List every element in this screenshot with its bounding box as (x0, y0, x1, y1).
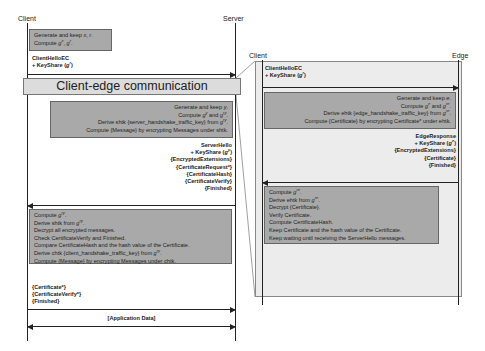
server-process-box: Generate and keep y. Compute gy and gry.… (50, 101, 233, 138)
inset-client-box-line-4: Verify Certificate. (269, 212, 434, 220)
server-box-line-3: Derive shtk {server_handshake_traffic_ke… (55, 119, 228, 127)
edge-response-line-3: {EncryptedExtensions} (330, 147, 456, 154)
application-data-label: [Application Data] (28, 315, 235, 322)
client-final-line-1: {Certificate*} (32, 284, 81, 291)
client-edge-banner: Client-edge communication (23, 78, 241, 95)
inset-client-hello-arrow (263, 87, 458, 88)
edge-response-line-4: {Certificate} (330, 155, 456, 162)
edge-box-line-4: Compute {Certificate} by encrypting Cert… (269, 118, 451, 126)
server-hello-line-3: {EncryptedExtensions} (100, 156, 232, 163)
server-hello-arrow (28, 205, 235, 206)
client-process-box: Compute gry. Derive shtk from gry. Decry… (29, 209, 232, 264)
edge-response-arrow (263, 182, 458, 183)
inset-client-box-line-2: Derive ehtk from gre. (269, 197, 434, 205)
inset-edge-lifeline (458, 60, 459, 305)
client-box-line-3: Decrypt all encrypted messages. (34, 227, 227, 235)
inset-client-process-box: Compute gre. Derive ehtk from gre. Decry… (264, 186, 439, 244)
server-hello-line-7: {Finished} (100, 185, 232, 192)
client-box-line-1: Compute gry. (34, 212, 227, 220)
client-box-line-4: Check CertificateVerify and Finished. (34, 235, 227, 243)
server-hello-line-2: + KeyShare (gy) (100, 149, 232, 156)
application-data-arrow (28, 326, 235, 327)
client-init-box: Generate and keep x, r. Compute gx, gr. (29, 29, 112, 51)
inset-edge-label: Edge (452, 52, 468, 59)
inset-client-hello-line-2: + KeyShare (gr) (265, 72, 306, 79)
participant-server-label: Server (223, 15, 244, 22)
edge-box-line-3: Derive ehtk {edge_handshake_traffic_key}… (269, 110, 451, 118)
inset-client-box-line-5: Compute CertificateHash. (269, 219, 434, 227)
inset-client-label: Client (249, 52, 267, 59)
client-box-line-2: Derive shtk from gry. (34, 220, 227, 228)
inset-client-box-line-3: Decrypt {Certificate}. (269, 204, 434, 212)
server-box-line-4: Compute {Message} by encrypting Messages… (55, 127, 228, 135)
client-hello-message: ClientHelloEC + KeyShare (gr) (32, 55, 73, 69)
client-final-line-3: {Finished} (32, 298, 81, 305)
server-box-line-1: Generate and keep y. (55, 104, 228, 112)
server-hello-line-5: {CertificateHash} (100, 171, 232, 178)
client-lifeline (27, 23, 28, 341)
client-init-line-2: Compute gx, gr. (34, 40, 107, 48)
edge-response-message: EdgeResponse + KeyShare (ge) {EncryptedE… (330, 133, 456, 169)
client-box-line-7: Compute {Message} by encrypting Messages… (34, 258, 227, 266)
client-box-line-6: Derive chtk {client_handshake_traffic_ke… (34, 250, 227, 258)
participant-client-label: Client (18, 15, 36, 22)
client-final-message: {Certificate*} {CertificateVerify*} {Fin… (32, 284, 81, 306)
server-hello-line-6: {CertificateVerify} (100, 178, 232, 185)
edge-response-line-2: + KeyShare (ge) (330, 140, 456, 147)
inset-client-box-line-7: Keep waiting until receiving the ServerH… (269, 235, 434, 243)
client-hello-line-2: + KeyShare (gr) (32, 62, 73, 69)
client-finished-arrow (28, 309, 235, 310)
client-hello-arrow (28, 74, 235, 75)
edge-process-box: Generate and keep e. Compute ge and gre.… (264, 92, 456, 129)
server-hello-line-4: {CertificateRequest*} (100, 164, 232, 171)
edge-response-line-5: {Finished} (330, 162, 456, 169)
client-box-line-5: Compare CertificateHash and the hash val… (34, 242, 227, 250)
client-final-line-2: {CertificateVerify*} (32, 291, 81, 298)
inset-client-box-line-6: Keep Certificate and the hash value of t… (269, 227, 434, 235)
inset-client-hello-message: ClientHelloEC + KeyShare (gr) (265, 65, 306, 79)
inset-client-box-line-1: Compute gre. (269, 189, 434, 197)
server-hello-message: ServerHello + KeyShare (gy) {EncryptedEx… (100, 142, 232, 192)
edge-box-line-1: Generate and keep e. (269, 95, 451, 103)
